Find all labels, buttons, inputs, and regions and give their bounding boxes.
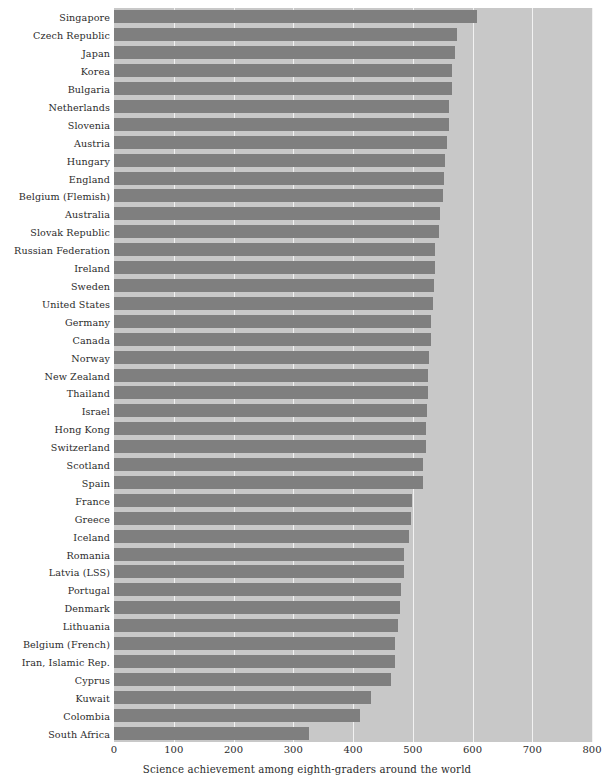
bar-row <box>114 601 592 614</box>
bar <box>114 172 444 185</box>
category-label: Korea <box>0 65 110 78</box>
bar-row <box>114 225 592 238</box>
bar <box>114 512 411 525</box>
category-label: Germany <box>0 316 110 329</box>
bar <box>114 369 428 382</box>
category-label: Sweden <box>0 280 110 293</box>
category-label: Denmark <box>0 602 110 615</box>
bar <box>114 351 429 364</box>
bar-row <box>114 691 592 704</box>
category-label: Canada <box>0 334 110 347</box>
category-label: New Zealand <box>0 370 110 383</box>
bar-row <box>114 333 592 346</box>
bar-row <box>114 565 592 578</box>
bar <box>114 386 428 399</box>
x-tick-label: 100 <box>164 744 183 755</box>
category-label: Israel <box>0 405 110 418</box>
category-label: Hong Kong <box>0 423 110 436</box>
bar <box>114 458 423 471</box>
category-label: Portugal <box>0 584 110 597</box>
bar-row <box>114 28 592 41</box>
x-tick-label: 800 <box>582 744 601 755</box>
bar-row <box>114 458 592 471</box>
bar <box>114 64 452 77</box>
bar-row <box>114 440 592 453</box>
bar <box>114 655 395 668</box>
category-label: Thailand <box>0 387 110 400</box>
category-label: Iceland <box>0 531 110 544</box>
bar-row <box>114 369 592 382</box>
bar-row <box>114 673 592 686</box>
category-label: Colombia <box>0 710 110 723</box>
bar <box>114 709 360 722</box>
category-label: Slovak Republic <box>0 226 110 239</box>
category-label: Belgium (Flemish) <box>0 190 110 203</box>
category-label: Australia <box>0 208 110 221</box>
bar <box>114 583 401 596</box>
bar <box>114 118 449 131</box>
category-label: Bulgaria <box>0 83 110 96</box>
bar-row <box>114 261 592 274</box>
bar-row <box>114 619 592 632</box>
bar <box>114 727 309 740</box>
bar <box>114 691 371 704</box>
x-tick-label: 300 <box>284 744 303 755</box>
bar-row <box>114 64 592 77</box>
bar <box>114 189 443 202</box>
bar <box>114 243 435 256</box>
category-label: Singapore <box>0 11 110 24</box>
plot-panel <box>114 8 592 742</box>
bar <box>114 637 395 650</box>
bar-row <box>114 46 592 59</box>
category-label: Cyprus <box>0 674 110 687</box>
bar <box>114 333 431 346</box>
bar <box>114 136 447 149</box>
category-label: South Africa <box>0 728 110 741</box>
x-tick-label: 500 <box>403 744 422 755</box>
bar-row <box>114 476 592 489</box>
bar-row <box>114 494 592 507</box>
bar-row <box>114 727 592 740</box>
bar <box>114 279 434 292</box>
bar-row <box>114 279 592 292</box>
bar <box>114 297 433 310</box>
category-label: Kuwait <box>0 692 110 705</box>
bar-row <box>114 154 592 167</box>
bar-row <box>114 118 592 131</box>
bar <box>114 673 391 686</box>
bar-row <box>114 351 592 364</box>
bar-row <box>114 243 592 256</box>
bar <box>114 28 457 41</box>
bar <box>114 315 431 328</box>
bar-row <box>114 172 592 185</box>
category-label: Iran, Islamic Rep. <box>0 656 110 669</box>
bar-row <box>114 315 592 328</box>
bar-row <box>114 709 592 722</box>
bar-row <box>114 207 592 220</box>
x-tick-label: 600 <box>463 744 482 755</box>
category-label: United States <box>0 298 110 311</box>
bar-row <box>114 548 592 561</box>
x-tick-label: 400 <box>343 744 362 755</box>
value-axis-ticks: 0100200300400500600700800 <box>114 744 592 762</box>
bar <box>114 261 435 274</box>
category-label: Romania <box>0 549 110 562</box>
bar-row <box>114 404 592 417</box>
bar <box>114 476 423 489</box>
category-label: Ireland <box>0 262 110 275</box>
bar-row <box>114 386 592 399</box>
gridline-800 <box>592 8 593 742</box>
bar <box>114 46 455 59</box>
bar-row <box>114 82 592 95</box>
category-label: Russian Federation <box>0 244 110 257</box>
bar-row <box>114 655 592 668</box>
category-axis-labels: SingaporeCzech RepublicJapanKoreaBulgari… <box>0 8 110 742</box>
bar <box>114 494 412 507</box>
bar-row <box>114 530 592 543</box>
x-tick-label: 700 <box>523 744 542 755</box>
bar <box>114 154 445 167</box>
bar-row <box>114 10 592 23</box>
bar-row <box>114 189 592 202</box>
bar <box>114 601 400 614</box>
science-achievement-bar-chart: SingaporeCzech RepublicJapanKoreaBulgari… <box>0 0 614 784</box>
